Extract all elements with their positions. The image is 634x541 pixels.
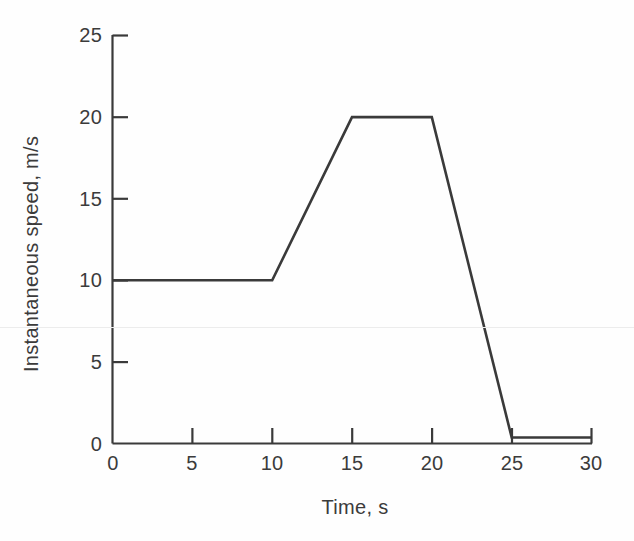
y-tick-label-25: 25 [62,24,102,47]
x-tick-label-0: 0 [107,452,118,475]
x-axis-ticks [192,428,591,444]
y-tick-label-20: 20 [62,106,102,129]
x-tick-label-10: 10 [261,452,284,475]
x-axis-title: Time, s [322,496,389,519]
y-tick-label-5: 5 [62,351,102,374]
x-tick-label-25: 25 [501,452,524,475]
y-tick-label-0: 0 [62,433,102,456]
y-axis-ticks [113,36,129,363]
y-axis-title: Instantaneous speed, m/s [20,136,43,372]
y-tick-label-15: 15 [62,188,102,211]
x-tick-label-30: 30 [580,452,603,475]
data-line-instantaneous-speed [113,117,592,437]
x-tick-label-20: 20 [421,452,444,475]
chart-figure: 25 20 15 10 5 0 0 5 10 15 20 25 30 Time,… [0,0,634,541]
y-tick-label-10: 10 [62,269,102,292]
x-tick-label-15: 15 [341,452,364,475]
x-tick-label-5: 5 [186,452,197,475]
